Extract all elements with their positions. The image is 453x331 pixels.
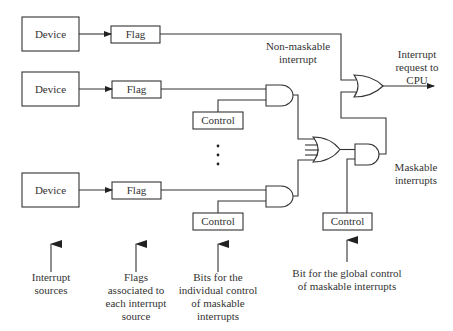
interrupt-request-line-1: Interrupt	[382, 48, 452, 61]
and-gate-global	[355, 144, 379, 165]
annotation-line: source	[96, 310, 176, 323]
maskable-label: Maskable interrupts	[386, 161, 446, 187]
annotation-global-bit: Bit for the global control of maskable i…	[287, 267, 407, 293]
flag-label: Flag	[112, 83, 161, 96]
ellipsis-dot	[217, 145, 220, 148]
control-label: Control	[323, 215, 372, 228]
annotation-line: of maskable interrupts	[287, 280, 407, 293]
control-label: Control	[193, 114, 243, 127]
and-gate-bottom	[266, 186, 293, 207]
ellipsis-dot	[217, 163, 220, 166]
annotation-line: Flags	[96, 271, 176, 284]
annotation-line: individual control	[173, 284, 263, 297]
annotation-line: of maskable	[173, 297, 263, 310]
annotation-interrupt-sources: Interrupt sources	[16, 271, 86, 297]
flag-label: Flag	[112, 184, 161, 197]
device-label: Device	[22, 184, 79, 197]
annotation-line: Bits for the	[173, 271, 263, 284]
non-maskable-label: Non-maskable interrupt	[258, 40, 338, 66]
and-gate-top	[266, 85, 293, 106]
annotation-line: associated to	[96, 284, 176, 297]
annotation-line: interrupts	[173, 310, 263, 323]
annotation-line: Bit for the global control	[287, 267, 407, 280]
annotation-line: Interrupt	[16, 271, 86, 284]
control-label: Control	[193, 215, 243, 228]
annotation-line: sources	[16, 284, 86, 297]
non-maskable-line-1: Non-maskable	[258, 40, 338, 53]
or-gate-output	[354, 75, 383, 97]
annotation-individual-bits: Bits for the individual control of maska…	[173, 271, 263, 323]
ellipsis-dot	[217, 154, 220, 157]
maskable-line-2: interrupts	[386, 174, 446, 187]
device-label: Device	[22, 28, 79, 41]
flag-label: Flag	[111, 28, 160, 41]
annotation-line: each interrupt	[96, 297, 176, 310]
interrupt-request-line-3: CPU	[382, 74, 452, 87]
non-maskable-line-2: interrupt	[258, 53, 338, 66]
interrupt-request-line-2: request to	[382, 61, 452, 74]
annotation-flags: Flags associated to each interrupt sourc…	[96, 271, 176, 323]
maskable-line-1: Maskable	[386, 161, 446, 174]
device-label: Device	[22, 83, 79, 96]
interrupt-request-label: Interrupt request to CPU	[382, 48, 452, 87]
